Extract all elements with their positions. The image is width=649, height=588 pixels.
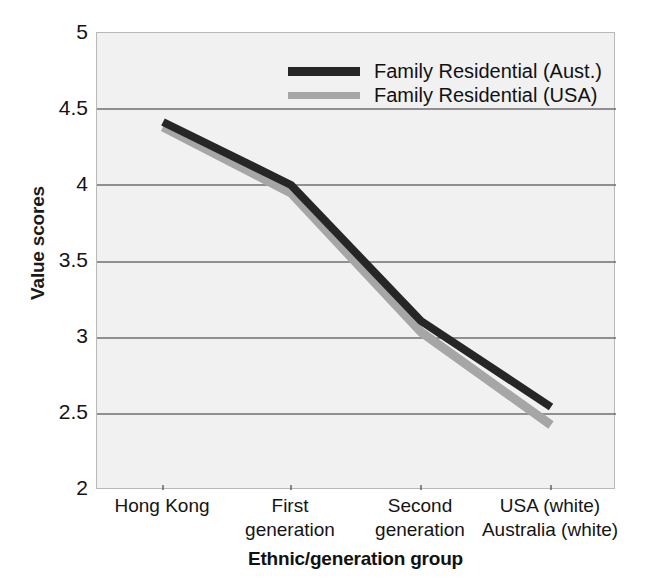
legend-item-aust: Family Residential (Aust.) (288, 58, 602, 84)
y-tick-label: 4.5 (42, 97, 88, 118)
y-tick-label: 3 (42, 325, 88, 346)
y-tick-label: 4 (42, 173, 88, 194)
series-line-usa (163, 127, 551, 425)
x-tick-label-usa-australia-white: USA (white) Australia (white) (462, 494, 638, 542)
x-axis-title: Ethnic/generation group (96, 548, 615, 570)
y-tick-label: 5 (42, 21, 88, 42)
line-chart: Value scores 5 4.5 4 3.5 3 2.5 2 (0, 0, 649, 588)
legend-label-aust: Family Residential (Aust.) (374, 60, 602, 82)
legend-swatch-aust (288, 67, 360, 76)
x-axis-tick-labels: Hong Kong First generation Second genera… (96, 494, 615, 546)
y-tick-label: 2.5 (42, 401, 88, 422)
x-tick-line: USA (white) (462, 494, 638, 518)
x-axis-ticks (163, 485, 551, 490)
legend-item-usa: Family Residential (USA) (288, 82, 597, 108)
legend: Family Residential (Aust.) Family Reside… (288, 58, 608, 110)
legend-swatch-usa (288, 92, 360, 99)
x-tick-line: Australia (white) (462, 518, 638, 542)
legend-label-usa: Family Residential (USA) (374, 84, 597, 106)
y-tick-label: 3.5 (42, 249, 88, 270)
